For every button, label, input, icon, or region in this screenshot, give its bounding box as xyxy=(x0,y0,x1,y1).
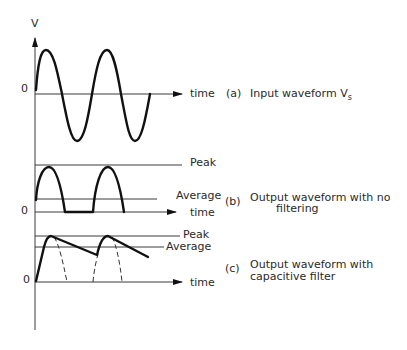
caption-b-line1: Output waveform with no xyxy=(250,191,391,204)
caption-letter-a: (a) xyxy=(226,87,241,100)
zero-label-a: 0 xyxy=(21,82,28,95)
caption-c-line2: capacitive filter xyxy=(250,270,336,283)
caption-b-line2: filtering xyxy=(276,202,319,215)
caption-a: Input waveform Vs xyxy=(250,87,352,102)
average-label-c: Average xyxy=(166,240,211,253)
input-sine-wave xyxy=(36,50,150,141)
peak-label-b: Peak xyxy=(190,156,217,169)
time-label-a: time xyxy=(190,87,215,100)
panel-b-unfiltered-output: Peak Average 0 time (b) Output waveform … xyxy=(21,156,391,219)
time-label-c: time xyxy=(190,276,215,289)
time-label-b: time xyxy=(190,206,215,219)
half-wave-output xyxy=(36,167,124,212)
zero-label-c: 0 xyxy=(23,273,30,286)
filtered-ripple-output xyxy=(36,236,148,281)
panel-a-input-waveform: 0 time (a) Input waveform Vs xyxy=(21,50,352,141)
average-label-b: Average xyxy=(176,189,221,202)
v-axis-label: V xyxy=(31,17,39,30)
panel-c-filtered-output: Peak Average 0 time (c) Output waveform … xyxy=(23,228,373,289)
unfiltered-half-wave-dashed-1 xyxy=(54,237,67,282)
caption-letter-c: (c) xyxy=(225,262,240,275)
caption-letter-b: (b) xyxy=(225,195,241,208)
rectifier-waveform-diagram: V 0 time (a) Input waveform Vs Peak Aver… xyxy=(0,0,407,350)
zero-label-b: 0 xyxy=(21,204,28,217)
unfiltered-half-wave-dashed-2 xyxy=(93,254,98,282)
